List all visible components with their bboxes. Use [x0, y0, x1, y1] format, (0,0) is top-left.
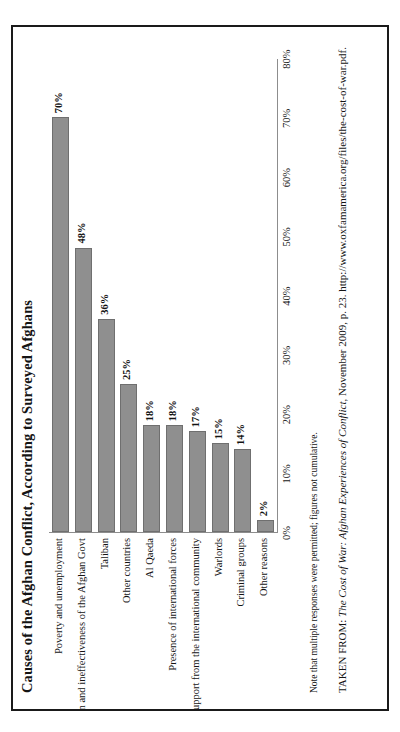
- bar: [98, 319, 115, 532]
- rotated-figure-stage: Causes of the Afghan Conflict, According…: [13, 27, 387, 709]
- bar: [234, 449, 251, 532]
- citation-prefix: TAKEN FROM:: [336, 617, 348, 693]
- bar-row: Al Qaeda18%: [143, 58, 160, 532]
- x-axis-tick-label: 10%: [281, 464, 292, 483]
- bar-category-label: Al Qaeda: [144, 538, 155, 578]
- x-axis-tick-label: 60%: [281, 168, 292, 187]
- bar-row: Warlords15%: [212, 58, 229, 532]
- value-axis-line: [277, 59, 278, 533]
- bar-category-label: Poverty and unemployment: [53, 538, 64, 654]
- bar-category-label: Lack of support from the international c…: [190, 538, 201, 711]
- bar: [212, 443, 229, 532]
- bar: [166, 425, 183, 532]
- x-axis-tick-label: 30%: [281, 346, 292, 365]
- bar-value-label: 25%: [121, 359, 132, 380]
- x-axis-tick-label: 40%: [281, 286, 292, 305]
- bar-chart-figure: Causes of the Afghan Conflict, According…: [13, 27, 387, 709]
- bar-row: Presence of international forces18%: [166, 58, 183, 532]
- bar-value-label: 70%: [53, 92, 64, 113]
- bar-value-label: 14%: [235, 424, 246, 445]
- bar-value-label: 17%: [190, 406, 201, 427]
- bar-row: Other countries25%: [120, 58, 137, 532]
- x-axis-tick-label: 50%: [281, 227, 292, 246]
- bar-category-label: Other countries: [121, 538, 132, 603]
- bar-row: Taliban36%: [98, 58, 115, 532]
- bar-row: Corruption and ineffectiveness of the Af…: [75, 58, 92, 532]
- figure-border-frame: Causes of the Afghan Conflict, According…: [11, 25, 389, 711]
- chart-citation: TAKEN FROM: The Cost of War: Afghan Expe…: [335, 43, 350, 693]
- bar-value-label: 18%: [144, 400, 155, 421]
- bar-value-label: 48%: [76, 223, 87, 244]
- figure-page: Causes of the Afghan Conflict, According…: [0, 0, 400, 732]
- plot-area: Poverty and unemployment70%Corruption an…: [49, 59, 277, 533]
- x-axis-tick-label: 20%: [281, 405, 292, 424]
- bar: [257, 520, 274, 532]
- bar-category-label: Taliban: [99, 538, 110, 569]
- x-axis-tick-label: 80%: [281, 49, 292, 68]
- bar: [143, 425, 160, 532]
- bar-value-label: 2%: [258, 500, 269, 516]
- bar-row: Lack of support from the international c…: [189, 58, 206, 532]
- bar-category-label: Presence of international forces: [167, 538, 178, 671]
- bar: [189, 431, 206, 532]
- bar-category-label: Criminal groups: [235, 538, 246, 607]
- category-axis-line: [49, 532, 277, 533]
- bar: [120, 384, 137, 532]
- bar-row: Poverty and unemployment70%: [52, 58, 69, 532]
- citation-source-title: The Cost of War: Afghan Experiences of C…: [336, 401, 348, 616]
- chart-title: Causes of the Afghan Conflict, According…: [19, 300, 36, 693]
- bar-category-label: Other reasons: [258, 538, 269, 596]
- bar-row: Other reasons2%: [257, 58, 274, 532]
- chart-note: Note that multiple responses were permit…: [309, 432, 319, 693]
- citation-suffix: , November 2009, p. 23. http://www.oxfam…: [336, 47, 348, 401]
- bar-value-label: 18%: [167, 400, 178, 421]
- bar: [52, 117, 69, 532]
- bar-value-label: 36%: [99, 294, 110, 315]
- bar: [75, 248, 92, 532]
- bar-category-label: Corruption and ineffectiveness of the Af…: [76, 538, 87, 711]
- bar-row: Criminal groups14%: [234, 58, 251, 532]
- bar-value-label: 15%: [213, 418, 224, 439]
- bar-category-label: Warlords: [213, 538, 224, 576]
- x-axis-tick-label: 0%: [281, 526, 292, 540]
- x-axis-tick-label: 70%: [281, 109, 292, 128]
